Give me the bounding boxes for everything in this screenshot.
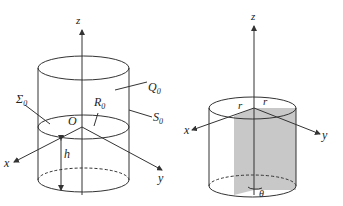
s0-label: S0 [153,110,163,126]
x-axis [14,127,82,162]
theta-label: θ [259,188,264,199]
right-cylinder-figure [192,26,320,197]
r-left-label: r [238,99,243,111]
y-label: y [157,171,164,185]
r0-label: R0 [93,95,105,111]
top-ellipse [38,56,129,80]
bottom-ellipse-front [38,180,129,192]
bottom-ellipse-back [38,168,129,180]
z-label: z [250,10,256,22]
r-right-label: r [263,95,268,107]
shaded-plane-left [234,108,254,195]
section-ellipse [38,115,129,139]
x-label: x [3,156,10,170]
left-cylinder-figure [14,30,162,195]
x-label: x [183,123,190,137]
sigma0-label: Σ0 [15,92,27,108]
h-label: h [64,147,70,161]
s0-leader [129,110,152,117]
z-label: z [75,14,81,26]
q0-leader [115,82,147,90]
left-figure-labels: z x y O R0 Q0 S0 Σ0 h [3,14,164,185]
y-label: y [321,128,328,142]
cylinder-diagrams: z x y O R0 Q0 S0 Σ0 h z x y r r θ [0,0,343,206]
origin-label: O [68,114,77,128]
q0-label: Q0 [148,80,161,96]
shaded-plane-right [254,108,296,190]
